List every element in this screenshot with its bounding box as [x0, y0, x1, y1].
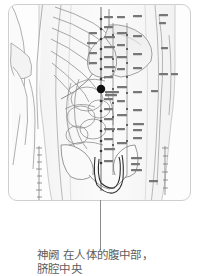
caption-line-1: 神阙 在人体的腹中部，	[37, 248, 153, 262]
left-arm	[9, 5, 43, 169]
caption-line-2: 脐腔中央	[37, 263, 199, 276]
caption-block: 神阙 在人体的腹中部， 脐腔中央	[37, 249, 199, 276]
left-measure-scale	[36, 146, 42, 201]
anatomy-canvas	[9, 5, 190, 200]
caption-leader-line	[100, 200, 101, 250]
acupoint-chart-root: 神阙 在人体的腹中部， 脐腔中央	[0, 0, 199, 276]
anatomy-illustration-panel	[8, 4, 191, 201]
anatomy-drawing	[9, 5, 191, 201]
shenque-marker	[97, 85, 105, 93]
